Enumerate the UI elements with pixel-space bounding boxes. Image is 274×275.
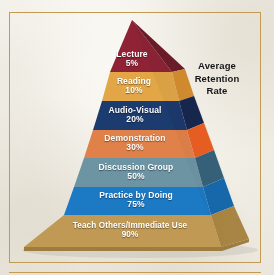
learning-pyramid-diagram <box>0 0 274 275</box>
figure-canvas: Lecture 5% Reading 10% Audio-Visual 20% … <box>0 0 274 275</box>
caption-line-3: Rate <box>176 85 258 98</box>
caption-line-1: Average <box>176 60 258 73</box>
band-face-practice-by-doing <box>64 187 211 215</box>
chart-title-average-retention-rate: Average Retention Rate <box>176 60 258 98</box>
caption-line-2: Retention <box>176 73 258 86</box>
pyramid-svg <box>0 0 274 275</box>
pyramid-bands <box>24 20 249 251</box>
band-face-teach-others <box>24 215 221 247</box>
band-face-discussion-group <box>74 158 203 187</box>
